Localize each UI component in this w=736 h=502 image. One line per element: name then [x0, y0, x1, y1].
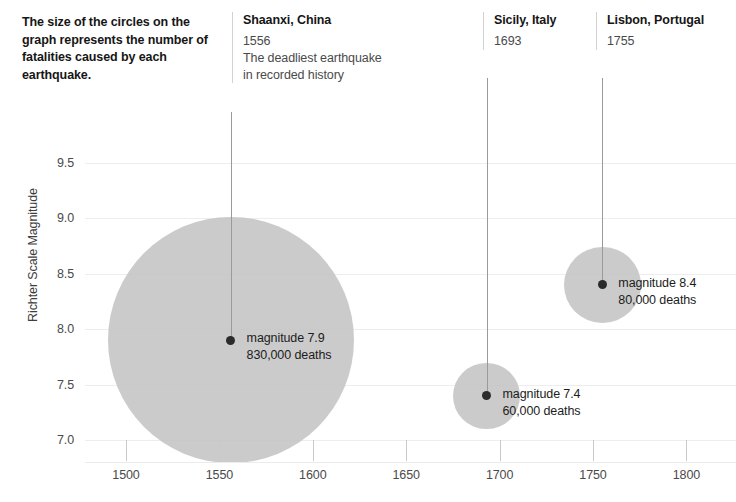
leader-line — [487, 78, 488, 396]
x-tick-label: 1550 — [179, 468, 259, 482]
data-point-dot[interactable] — [226, 336, 235, 345]
x-tick — [593, 440, 594, 461]
plot-area: 7.07.58.08.59.09.5 Richter Scale Magnitu… — [0, 0, 736, 502]
leader-line — [231, 112, 232, 340]
data-point-label: magnitude 8.4 80,000 deaths — [618, 275, 696, 309]
x-tick-label: 1500 — [86, 468, 166, 482]
x-tick-label: 1750 — [553, 468, 633, 482]
data-point-label: magnitude 7.4 60,000 deaths — [503, 386, 581, 420]
x-tick — [313, 440, 314, 461]
x-tick-label: 1800 — [646, 468, 726, 482]
gridline — [85, 218, 736, 219]
x-tick — [686, 440, 687, 461]
x-tick — [406, 440, 407, 461]
y-axis-title: Richter Scale Magnitude — [26, 160, 40, 350]
y-tick-label: 9.0 — [34, 211, 74, 225]
y-tick-label: 9.5 — [34, 156, 74, 170]
x-tick — [126, 440, 127, 461]
y-tick-label: 8.5 — [34, 267, 74, 281]
x-tick-label: 1600 — [273, 468, 353, 482]
x-tick-label: 1650 — [366, 468, 446, 482]
y-tick-label: 8.0 — [34, 322, 74, 336]
y-tick-label: 7.0 — [34, 433, 74, 447]
x-tick-label: 1700 — [460, 468, 540, 482]
x-axis-line — [85, 462, 736, 463]
x-tick — [219, 440, 220, 461]
gridline — [85, 163, 736, 164]
x-tick — [500, 440, 501, 461]
leader-line — [602, 78, 603, 285]
data-point-label: magnitude 7.9 830,000 deaths — [247, 330, 332, 364]
y-tick-label: 7.5 — [34, 378, 74, 392]
earthquake-bubble-chart: The size of the circles on the graph rep… — [0, 0, 736, 502]
